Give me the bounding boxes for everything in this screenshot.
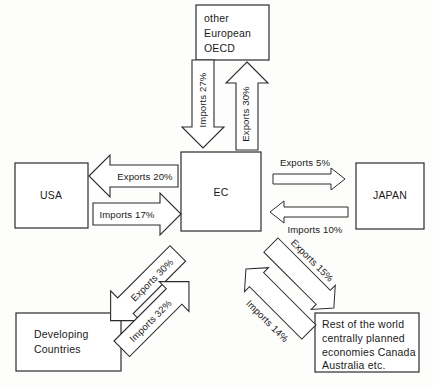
oecd-label-line3: OECD [204, 42, 235, 54]
oecd-label-line1: other [204, 12, 229, 24]
flow-arrow-japan-imports[interactable]: Imports 10% [270, 201, 348, 235]
flow-arrow-usa-exports[interactable]: Exports 20% [89, 155, 178, 197]
japan-imports-label: Imports 10% [288, 224, 343, 235]
rest-label-line4: Australia etc. [322, 359, 386, 371]
flow-arrow-oecd-exports[interactable]: Exports 30% [226, 62, 268, 150]
node-usa[interactable]: USA [15, 163, 88, 228]
usa-imports-label: Imports 17% [100, 209, 155, 220]
node-japan[interactable]: JAPAN [356, 163, 424, 229]
usa-exports-label: Exports 20% [117, 171, 173, 182]
flow-arrow-oecd-imports[interactable]: Imports 27% [182, 60, 224, 148]
diagram-canvas: other European OECD USA EC JAPAN Develop… [0, 0, 433, 387]
flow-arrow-usa-imports[interactable]: Imports 17% [93, 193, 181, 235]
japan-imports-arrow-shape[interactable] [270, 201, 348, 223]
node-ec[interactable]: EC [181, 152, 261, 231]
developing-countries-box[interactable] [16, 313, 121, 371]
developing-label-line1: Developing [34, 328, 89, 340]
flow-arrow-japan-exports[interactable]: Exports 5% [273, 157, 345, 190]
rest-label-line3: economies Canada [322, 346, 416, 358]
japan-exports-label: Exports 5% [280, 157, 330, 168]
japan-label: JAPAN [373, 189, 407, 201]
usa-label: USA [40, 189, 62, 201]
node-rest-of-world[interactable]: Rest of the world centrally planned econ… [315, 313, 419, 372]
node-other-european-oecd[interactable]: other European OECD [196, 5, 269, 60]
trade-flow-diagram: other European OECD USA EC JAPAN Develop… [0, 0, 433, 387]
developing-label-line2: Countries [34, 343, 81, 355]
node-developing-countries[interactable]: Developing Countries [16, 313, 121, 371]
japan-exports-arrow-shape[interactable] [273, 168, 345, 190]
oecd-imports-label: Imports 27% [197, 72, 208, 127]
rest-label-line1: Rest of the world [322, 318, 404, 330]
ec-label: EC [214, 186, 229, 198]
oecd-label-line2: European [204, 27, 251, 39]
rest-label-line2: centrally planned [322, 332, 405, 344]
oecd-exports-label: Exports 30% [240, 86, 251, 142]
